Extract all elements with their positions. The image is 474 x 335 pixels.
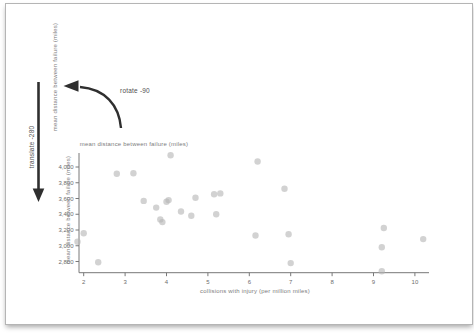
data-point — [379, 268, 385, 274]
figure-box: 23456789102,8003,0003,2003,4003,6003,800… — [5, 3, 473, 325]
data-point — [217, 190, 223, 196]
data-point — [159, 219, 165, 225]
data-point — [130, 170, 136, 176]
data-point — [281, 186, 287, 192]
scatter-points — [74, 152, 426, 274]
svg-text:2: 2 — [82, 279, 86, 285]
svg-text:4: 4 — [165, 279, 169, 285]
data-point — [153, 204, 159, 210]
rotate-arrow — [64, 80, 122, 128]
translate-annotation: translate -280 — [28, 125, 35, 168]
data-point — [254, 158, 260, 164]
svg-text:6: 6 — [248, 279, 252, 285]
data-point — [420, 236, 426, 242]
data-point — [213, 211, 219, 217]
data-point — [379, 244, 385, 250]
data-point — [74, 239, 80, 245]
page: { "figure": { "annotations": { "rotate_l… — [0, 0, 474, 335]
data-point — [167, 152, 173, 158]
data-point — [285, 231, 291, 237]
ghost-vertical-axis-label: mean distance between failure (miles) — [52, 22, 58, 130]
svg-text:10: 10 — [412, 279, 419, 285]
data-point — [252, 232, 258, 238]
data-point — [95, 259, 101, 265]
data-point — [141, 198, 147, 204]
svg-text:8: 8 — [330, 279, 334, 285]
data-point — [381, 225, 387, 231]
scatter-plot: 23456789102,8003,0003,2003,4003,6003,800… — [6, 4, 472, 323]
svg-text:9: 9 — [372, 279, 376, 285]
data-point — [192, 195, 198, 201]
data-point — [81, 230, 87, 236]
svg-text:7: 7 — [289, 279, 293, 285]
data-point — [114, 171, 120, 177]
data-point — [165, 197, 171, 203]
rotate-annotation: rotate -90 — [120, 87, 150, 94]
data-point — [188, 213, 194, 219]
x-axis-title: collisions with injury (per million mile… — [200, 288, 310, 294]
data-point — [178, 208, 184, 214]
svg-text:5: 5 — [206, 279, 210, 285]
y-axis-title: mean distance between failure (miles) — [65, 156, 71, 264]
svg-text:3: 3 — [123, 279, 127, 285]
ghost-horizontal-axis-label: mean distance between failure (miles) — [80, 141, 188, 147]
data-point — [211, 191, 217, 197]
data-point — [288, 260, 294, 266]
